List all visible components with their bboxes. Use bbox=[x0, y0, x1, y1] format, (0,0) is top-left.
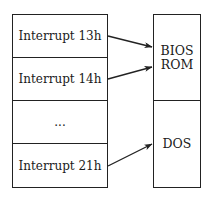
arrow-13h-to-bios bbox=[108, 36, 152, 47]
arrow-21h-to-dos bbox=[108, 144, 152, 166]
arrow-14h-to-bios bbox=[108, 67, 152, 79]
arrows-layer bbox=[0, 0, 212, 199]
